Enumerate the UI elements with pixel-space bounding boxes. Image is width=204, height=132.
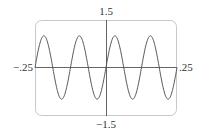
- x-min-label: −.25: [13, 61, 33, 73]
- y-max-label: 1.5: [99, 5, 113, 17]
- sine-plot: 1.5 −1.5 −.25 .25: [0, 0, 204, 132]
- y-min-label: −1.5: [96, 118, 116, 130]
- x-max-label: .25: [179, 61, 193, 73]
